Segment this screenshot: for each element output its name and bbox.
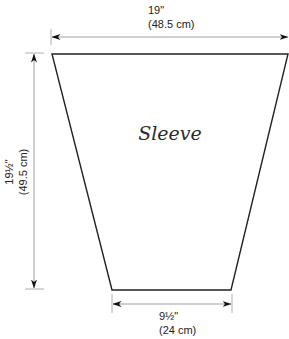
top-width-dimension: 19" (48.5 cm) — [51, 4, 288, 45]
bottom-width-imperial: 9½" — [159, 310, 178, 322]
bottom-width-metric: (24 cm) — [159, 324, 196, 336]
piece-name: Sleeve — [138, 122, 202, 144]
sleeve-outline — [52, 54, 288, 290]
top-width-metric: (48.5 cm) — [148, 18, 194, 30]
length-dimension: 19½" (49.5 cm) — [3, 53, 44, 289]
top-width-imperial: 19" — [148, 4, 164, 16]
length-metric: (49.5 cm) — [17, 149, 29, 195]
bottom-width-dimension: 9½" (24 cm) — [112, 294, 232, 336]
length-imperial: 19½" — [3, 159, 15, 184]
sleeve-schematic: Sleeve 19" (48.5 cm) 19½" (49.5 cm) 9½" … — [0, 0, 289, 339]
